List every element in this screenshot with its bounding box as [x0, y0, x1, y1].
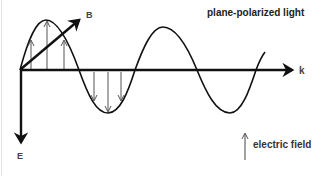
- electric-field-arrows-down: [94, 72, 121, 111]
- electric-wave: [20, 20, 265, 113]
- diagram-title: plane-polarized light: [207, 8, 304, 18]
- e-axis-label: E: [17, 151, 23, 161]
- b-axis-label: B: [86, 10, 93, 20]
- k-axis-label: k: [299, 66, 305, 76]
- b-axis-arrow: [21, 20, 79, 69]
- diagram-canvas: plane-polarized light B k E electric fie…: [0, 0, 321, 176]
- legend-label: electric field: [253, 140, 311, 150]
